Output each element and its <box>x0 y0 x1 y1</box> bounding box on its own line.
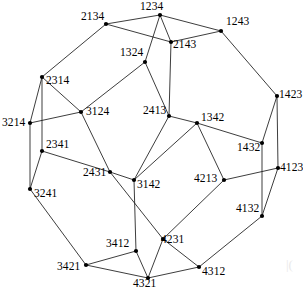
graph-edge <box>160 15 221 31</box>
graph-edge <box>30 151 42 189</box>
graph-edge <box>160 15 171 42</box>
vertex-label-2314: 2314 <box>46 75 69 87</box>
graph-edge <box>106 15 160 24</box>
vertex-label-4132: 4132 <box>236 203 259 215</box>
graph-edge <box>136 251 148 278</box>
graph-edge <box>199 216 262 267</box>
vertex-label-4123: 4123 <box>280 162 303 174</box>
graph-vertex-1324 <box>143 60 147 64</box>
vertex-label-3421: 3421 <box>57 261 80 273</box>
graph-edge <box>134 123 197 180</box>
vertex-label-3142: 3142 <box>137 179 160 191</box>
vertex-label-1423: 1423 <box>279 89 302 101</box>
vertex-label-4213: 4213 <box>194 173 217 185</box>
vertex-label-2431: 2431 <box>83 167 106 179</box>
graph-edge <box>224 168 278 180</box>
graph-edge <box>42 24 106 77</box>
graph-edge <box>81 112 110 172</box>
vertex-label-1324: 1324 <box>120 47 143 59</box>
graph-vertex-4213 <box>222 178 226 182</box>
vertex-label-4321: 4321 <box>133 278 156 290</box>
graph-vertex-1243 <box>219 29 223 33</box>
vertex-label-1234: 1234 <box>140 1 163 13</box>
graph-edge <box>221 31 277 96</box>
vertex-label-4231: 4231 <box>161 234 184 246</box>
graph-vertex-1342 <box>195 121 199 125</box>
graph-vertex-2314 <box>40 75 44 79</box>
vertex-label-4312: 4312 <box>202 266 225 278</box>
graph-vertex-3214 <box>28 121 32 125</box>
vertex-label-3124: 3124 <box>86 106 109 118</box>
graph-vertex-2413 <box>167 114 171 118</box>
graph-vertex-3124 <box>79 110 83 114</box>
graph-edge <box>86 251 136 265</box>
graph-vertex-2134 <box>104 22 108 26</box>
vertex-label-1342: 1342 <box>201 112 224 124</box>
graph-edge <box>30 112 81 123</box>
graph-edge <box>169 42 171 116</box>
graph-edge <box>134 116 169 180</box>
graph-vertex-2431 <box>108 170 112 174</box>
graph-vertex-2341 <box>40 149 44 153</box>
vertex-label-1432: 1432 <box>237 142 260 154</box>
vertex-label-2134: 2134 <box>81 11 104 23</box>
graph-vertex-4132 <box>260 214 264 218</box>
graph-vertex-1432 <box>260 141 264 145</box>
graph-edge <box>30 77 42 123</box>
graph-vertex-3241 <box>28 187 32 191</box>
vertex-label-2341: 2341 <box>46 139 69 151</box>
vertex-label-3241: 3241 <box>34 188 57 200</box>
vertex-label-2413: 2413 <box>143 105 166 117</box>
graph-edge <box>197 123 262 143</box>
vertex-label-2143: 2143 <box>173 39 196 51</box>
graph-edge <box>277 96 278 168</box>
graph-edge <box>30 189 86 265</box>
graph-edge <box>169 116 197 123</box>
vertex-label-1243: 1243 <box>226 16 249 28</box>
graph-vertex-3421 <box>84 263 88 267</box>
graph-vertex-3142 <box>132 178 136 182</box>
graph-edge <box>262 96 277 143</box>
graph-vertex-3412 <box>134 249 138 253</box>
permutohedron-figure: 1234213412432143132423141423312424133214… <box>0 0 303 293</box>
graph-edge <box>106 24 171 42</box>
graph-edge <box>134 180 136 251</box>
graph-edge <box>163 180 224 239</box>
graph-edge <box>262 168 278 216</box>
graph-vertex-4312 <box>197 265 201 269</box>
corner-artifact: |( <box>286 257 302 291</box>
vertex-label-3412: 3412 <box>106 238 129 250</box>
vertex-label-3214: 3214 <box>2 117 25 129</box>
graph-vertex-1234 <box>158 13 162 17</box>
